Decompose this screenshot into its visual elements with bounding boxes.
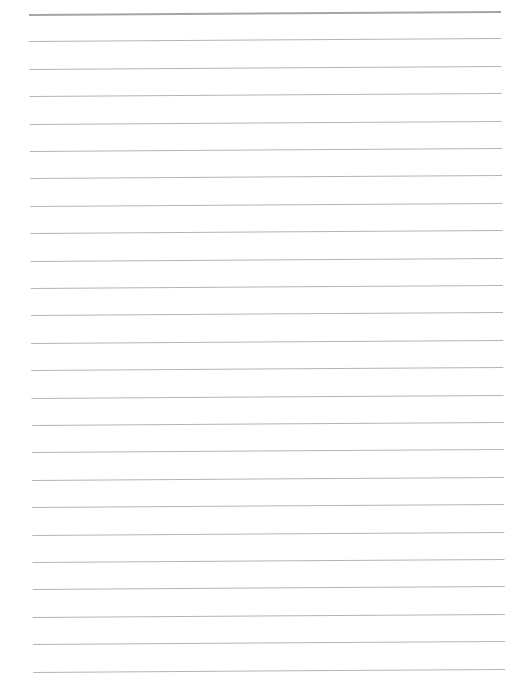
rule-line xyxy=(31,285,503,289)
rule-line xyxy=(33,586,505,590)
rule-line xyxy=(32,532,504,536)
lined-paper-page xyxy=(0,0,508,679)
rule-line xyxy=(30,175,502,179)
rule-line xyxy=(31,395,503,399)
rule-line xyxy=(29,66,501,70)
rule-line xyxy=(30,121,502,125)
rule-line xyxy=(30,148,502,152)
rule-line xyxy=(30,93,502,97)
rule-line xyxy=(32,477,504,481)
rule-line xyxy=(33,669,505,673)
rule-line xyxy=(32,449,504,453)
rule-line xyxy=(31,258,503,262)
top-rule-line xyxy=(29,11,501,16)
rule-line xyxy=(33,559,505,563)
rule-line xyxy=(32,504,504,508)
rule-line xyxy=(33,641,505,645)
rule-line xyxy=(33,614,505,618)
rule-line xyxy=(31,312,503,316)
ruled-lines xyxy=(29,0,505,679)
rule-line xyxy=(31,340,503,344)
rule-line xyxy=(30,230,502,234)
rule-line xyxy=(31,367,503,371)
rule-line xyxy=(30,203,502,207)
rule-line xyxy=(32,422,504,426)
rule-line xyxy=(29,38,501,42)
